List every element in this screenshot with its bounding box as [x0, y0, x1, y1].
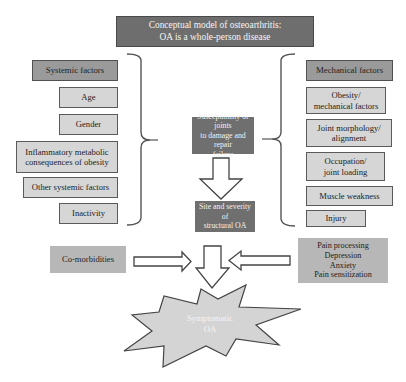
- right-arrow-icon: [134, 252, 191, 271]
- right-brace-icon: [272, 54, 295, 226]
- left-arrow-icon: [229, 251, 290, 270]
- left-brace-icon: [127, 54, 150, 225]
- down-arrow-icon: [196, 246, 229, 288]
- down-arrow-icon: [200, 158, 242, 199]
- symptomatic-oa-line-2: OA: [170, 324, 250, 335]
- symptomatic-oa-label: Symptomatic OA: [170, 313, 250, 334]
- symptomatic-oa-line-1: Symptomatic: [170, 313, 250, 324]
